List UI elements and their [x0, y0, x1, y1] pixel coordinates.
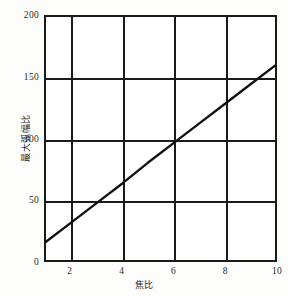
x-axis-tick-label: 6: [171, 266, 176, 276]
x-axis-title: 焦比: [0, 278, 288, 291]
y-axis-tick-label: 0: [34, 257, 39, 267]
y-axis-tick-label: 50: [29, 195, 39, 205]
y-axis-tick-label: 200: [24, 10, 39, 20]
x-axis-tick-label: 2: [67, 266, 72, 276]
plot-area: [44, 15, 277, 262]
x-axis-tick-label: 10: [272, 266, 282, 276]
data-series-layer: [46, 17, 275, 260]
data-line: [46, 66, 275, 242]
y-axis-title: 最大弧幅比: [19, 114, 32, 162]
x-axis-tick-label: 8: [223, 266, 228, 276]
y-axis-tick-label: 150: [24, 72, 39, 82]
x-axis-tick-label: 4: [119, 266, 124, 276]
chart-figure: 050100150200 246810 最大弧幅比 焦比: [0, 0, 288, 296]
